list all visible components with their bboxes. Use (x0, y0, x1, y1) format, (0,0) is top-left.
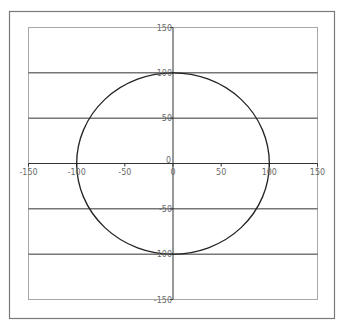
x-tick-label: -50 (118, 168, 131, 177)
y-tick-label: 0 (166, 156, 171, 165)
y-tick-label: -100 (154, 250, 172, 259)
x-tick-label: -100 (68, 168, 86, 177)
x-tick-label: 100 (262, 168, 277, 177)
y-tick-label: -50 (159, 205, 172, 214)
y-tick-label: 150 (157, 24, 172, 33)
y-tick-label: 50 (162, 114, 172, 123)
y-tick-label: 100 (157, 69, 172, 78)
y-tick-label: -150 (154, 296, 172, 305)
chart: -150-100-50050100150 150100500-50-100-15… (0, 0, 344, 323)
x-tick-label: 0 (170, 168, 175, 177)
x-tick-label: 50 (216, 168, 226, 177)
x-tick-label: -150 (19, 168, 37, 177)
x-tick-label: 150 (310, 168, 325, 177)
